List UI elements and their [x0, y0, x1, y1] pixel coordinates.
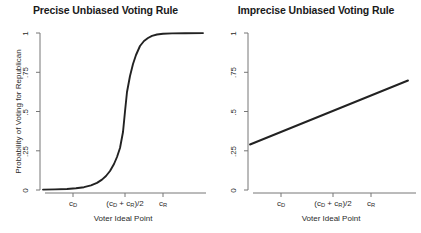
y-axis-title-precise: Probability of Voting for Republican	[14, 32, 23, 192]
x-tick-label-midpoint-precise: (cD + cR)/2	[93, 199, 157, 208]
x-axis-title-precise: Voter Ideal Point	[40, 214, 206, 223]
x-axis-title-imprecise: Voter Ideal Point	[248, 214, 414, 223]
x-tick-label-cd-precise: cD	[59, 199, 87, 208]
y-tick-label-0-imprecise: 0	[229, 180, 238, 202]
x-tick-label-cr-imprecise: cR	[357, 199, 385, 208]
logistic-curve-precise	[43, 33, 203, 190]
x-tick-label-cr-precise: cR	[149, 199, 177, 208]
panel-precise-voting-rule: Precise Unbiased Voting Rule 0 .25 .5 .7…	[0, 0, 211, 233]
y-tick-label-50-imprecise: .5	[229, 101, 238, 123]
figure-voting-rules: Precise Unbiased Voting Rule 0 .25 .5 .7…	[0, 0, 421, 233]
y-tick-label-100-imprecise: 1	[229, 23, 238, 45]
x-tick-label-cd-imprecise: cD	[267, 199, 295, 208]
linear-curve-imprecise	[250, 81, 408, 145]
panel-imprecise-voting-rule: Imprecise Unbiased Voting Rule 0 .25 .5 …	[211, 0, 421, 233]
y-tick-label-25-imprecise: .25	[229, 140, 238, 162]
y-tick-label-75-imprecise: .75	[229, 62, 238, 84]
x-tick-label-midpoint-imprecise: (cD + cR)/2	[301, 199, 365, 208]
